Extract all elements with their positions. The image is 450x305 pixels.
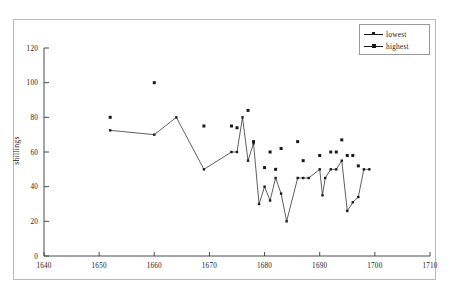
y-tick-label: 80 <box>30 114 38 122</box>
legend-item-highest[interactable]: highest <box>364 40 425 52</box>
x-tick-label: 1680 <box>257 262 272 270</box>
data-point-lowest <box>247 159 249 161</box>
data-point-highest <box>236 126 239 129</box>
data-point-highest <box>296 140 299 143</box>
x-tick-label: 1640 <box>36 262 51 270</box>
data-point-highest <box>302 159 305 162</box>
data-point-highest <box>357 164 360 167</box>
axes: 1640165016601670168016901700171002040608… <box>27 45 438 270</box>
data-point-lowest <box>153 133 155 135</box>
data-point-lowest <box>269 199 271 201</box>
data-point-lowest <box>203 168 205 170</box>
data-point-lowest <box>321 194 323 196</box>
data-point-lowest <box>296 177 298 179</box>
data-point-lowest <box>307 177 309 179</box>
data-point-lowest <box>319 168 321 170</box>
data-point-highest <box>269 151 272 154</box>
legend-label-highest: highest <box>386 42 409 51</box>
legend-marker-lowest-icon <box>364 29 383 39</box>
data-point-lowest <box>285 220 287 222</box>
data-series <box>109 81 371 222</box>
data-point-lowest <box>280 192 282 194</box>
data-point-highest <box>153 81 156 84</box>
data-point-lowest <box>236 151 238 153</box>
data-point-lowest <box>368 168 370 170</box>
data-point-highest <box>335 151 338 154</box>
data-point-highest <box>340 138 343 141</box>
legend-marker-highest-icon <box>364 41 383 51</box>
data-point-lowest <box>175 116 177 118</box>
x-tick-label: 1690 <box>312 262 327 270</box>
data-point-highest <box>274 168 277 171</box>
data-point-highest <box>280 147 283 150</box>
legend-label-lowest: lowest <box>386 30 407 39</box>
y-tick-label: 120 <box>27 45 39 53</box>
x-tick-label: 1650 <box>92 262 107 270</box>
data-point-highest <box>263 166 266 169</box>
x-tick-label: 1710 <box>422 262 437 270</box>
data-point-lowest <box>346 210 348 212</box>
data-point-lowest <box>363 168 365 170</box>
data-point-lowest <box>241 116 243 118</box>
data-point-lowest <box>357 196 359 198</box>
y-tick-label: 100 <box>27 79 39 87</box>
y-tick-label: 60 <box>30 149 38 157</box>
y-tick-label: 0 <box>34 253 38 261</box>
data-point-highest <box>346 154 349 157</box>
y-tick-label: 40 <box>30 183 38 191</box>
data-point-lowest <box>302 177 304 179</box>
data-point-highest <box>109 116 112 119</box>
data-point-highest <box>230 125 233 128</box>
data-point-lowest <box>335 168 337 170</box>
data-point-lowest <box>341 159 343 161</box>
data-point-lowest <box>258 203 260 205</box>
y-axis-title: shillings <box>12 121 21 181</box>
y-tick-label: 20 <box>30 218 38 226</box>
data-point-highest <box>252 140 255 143</box>
data-point-lowest <box>263 185 265 187</box>
x-tick-label: 1660 <box>147 262 162 270</box>
legend-item-lowest[interactable]: lowest <box>364 28 425 40</box>
chart-legend[interactable]: lowest highest <box>359 24 430 55</box>
data-point-highest <box>329 151 332 154</box>
data-point-highest <box>318 154 321 157</box>
data-point-lowest <box>330 168 332 170</box>
data-point-lowest <box>230 151 232 153</box>
data-point-lowest <box>324 177 326 179</box>
x-tick-label: 1700 <box>367 262 382 270</box>
data-point-lowest <box>274 177 276 179</box>
data-point-lowest <box>109 129 111 131</box>
data-point-highest <box>247 109 250 112</box>
data-point-highest <box>202 125 205 128</box>
x-tick-label: 1670 <box>202 262 217 270</box>
data-point-lowest <box>352 201 354 203</box>
data-point-highest <box>351 154 354 157</box>
